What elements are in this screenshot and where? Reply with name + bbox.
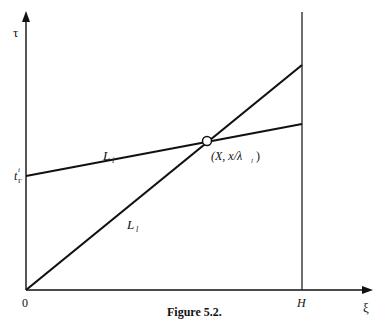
figure-caption: Figure 5.2.	[167, 305, 222, 319]
svg-text:): )	[256, 149, 260, 163]
x-axis-arrow-icon	[362, 286, 373, 294]
y-axis-label: τ	[13, 25, 18, 40]
line-label-shallow: L i	[102, 148, 114, 165]
line-L-shallow	[26, 124, 302, 176]
H-label: H	[296, 296, 307, 310]
svg-text:i: i	[18, 166, 20, 174]
figure-diagram: τ ξ 0 H t i Γ L i L l (X, x/λ l ) Figure…	[0, 0, 384, 327]
svg-text:Γ: Γ	[18, 177, 22, 185]
svg-text:(X, x/λ: (X, x/λ	[211, 149, 242, 163]
y-axis-arrow-icon	[22, 11, 30, 22]
svg-text:l: l	[136, 225, 139, 234]
intersection-point	[203, 137, 212, 146]
origin-label: 0	[22, 296, 28, 310]
svg-text:l: l	[251, 157, 253, 165]
line-label-steep: L l	[126, 217, 139, 234]
x-axis-label: ξ	[363, 300, 369, 315]
svg-text:L: L	[102, 148, 110, 163]
svg-text:i: i	[112, 156, 114, 165]
y-mark-label: t i Γ	[14, 166, 22, 185]
line-L-steep	[26, 65, 302, 290]
svg-text:L: L	[126, 217, 134, 232]
intersection-label: (X, x/λ l )	[211, 149, 260, 165]
